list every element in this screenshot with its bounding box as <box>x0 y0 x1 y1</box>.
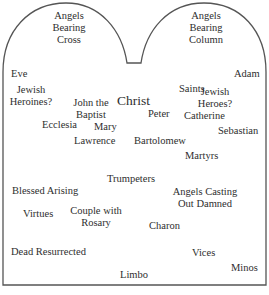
label-mary: Mary <box>94 121 117 133</box>
label-limbo: Limbo <box>120 269 148 281</box>
label-bartolomew: Bartolomew <box>134 135 186 147</box>
label-charon: Charon <box>149 220 180 232</box>
label-angels-casting-out-damned: Angels Casting Out Damned <box>172 186 238 210</box>
label-lawrence: Lawrence <box>74 135 115 147</box>
label-adam: Adam <box>234 68 260 80</box>
label-jewish-heroines: Jewish Heroines? <box>8 84 54 108</box>
label-minos: Minos <box>231 262 258 274</box>
label-dead-resurrected: Dead Resurrected <box>11 246 86 258</box>
label-eve: Eve <box>11 68 27 80</box>
label-peter: Peter <box>148 108 170 120</box>
label-sebastian: Sebastian <box>218 125 258 137</box>
label-christ: Christ <box>117 93 150 108</box>
label-blessed-arising: Blessed Arising <box>12 185 78 197</box>
label-angels-bearing-column: Angels Bearing Column <box>184 10 228 46</box>
label-catherine: Catherine <box>184 110 225 122</box>
label-angels-bearing-cross: Angels Bearing Cross <box>48 10 90 46</box>
label-trumpeters: Trumpeters <box>107 173 155 185</box>
label-ecclesia: Ecclesia <box>42 119 77 131</box>
label-martyrs: Martyrs <box>185 150 218 162</box>
label-jewish-heroes: Jewish Heroes? <box>194 86 236 110</box>
label-virtues: Virtues <box>23 208 53 220</box>
label-couple-with-rosary: Couple with Rosary <box>69 205 123 229</box>
label-vices: Vices <box>192 247 215 259</box>
label-john-the-baptist: John the Baptist <box>69 97 113 121</box>
